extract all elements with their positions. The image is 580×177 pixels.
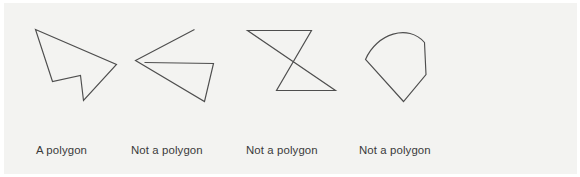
shape-polygon-curved bbox=[366, 33, 427, 102]
caption-row: A polygon Not a polygon (not closed) Not… bbox=[4, 107, 577, 174]
shape-polygon-not-closed bbox=[136, 30, 214, 102]
open-chevron-path bbox=[136, 30, 214, 102]
self-crossing-bowtie-path bbox=[248, 31, 336, 91]
caption-polygon-self-crossing: Not a polygon (crosses itself) bbox=[246, 107, 321, 177]
caption-polygon-not-closed: Not a polygon (not closed) bbox=[131, 107, 203, 177]
curved-fan-shape-path bbox=[366, 33, 427, 102]
caption-line: A polygon bbox=[36, 142, 87, 160]
shape-polygon-self-crossing bbox=[248, 31, 336, 91]
caption-line: Not a polygon bbox=[131, 142, 203, 160]
shape-polygon-valid bbox=[36, 30, 117, 101]
caption-line: Not a polygon bbox=[246, 142, 321, 160]
caption-polygon-curved: Not a polygon (not formed by segments) bbox=[359, 107, 431, 177]
figure-panel: A polygon Not a polygon (not closed) Not… bbox=[0, 0, 580, 177]
caption-polygon-valid: A polygon bbox=[36, 107, 87, 177]
caption-line: Not a polygon bbox=[359, 142, 431, 160]
concave-arrow-polygon-path bbox=[36, 30, 117, 101]
